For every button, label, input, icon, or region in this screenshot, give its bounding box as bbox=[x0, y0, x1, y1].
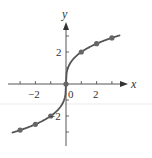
data-point bbox=[63, 81, 68, 86]
data-point bbox=[18, 127, 23, 132]
x-tick-label-neg2: −2 bbox=[28, 88, 40, 100]
y-axis-arrow-icon bbox=[63, 22, 69, 30]
data-point bbox=[33, 122, 38, 127]
data-point bbox=[94, 41, 99, 46]
cube-root-plot: x y −2 0 2 2 −2 bbox=[0, 0, 152, 158]
y-tick-label-neg2: −2 bbox=[49, 110, 61, 122]
y-axis-label: y bbox=[61, 7, 68, 21]
x-tick-label-0: 0 bbox=[68, 88, 74, 100]
x-tick-label-2: 2 bbox=[93, 88, 99, 100]
x-axis-label: x bbox=[130, 77, 137, 91]
x-axis-arrow-icon bbox=[120, 81, 128, 87]
y-tick-label-2: 2 bbox=[56, 46, 62, 58]
data-point bbox=[79, 49, 84, 54]
data-point bbox=[109, 35, 114, 40]
